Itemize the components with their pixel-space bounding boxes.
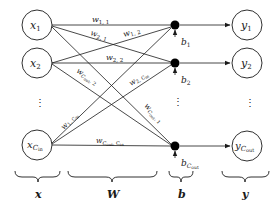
- bias-node-cout: [171, 142, 180, 151]
- group-label-y: y: [241, 188, 250, 201]
- group-label-x: x: [34, 188, 42, 201]
- bias-node-1: [171, 21, 180, 30]
- weight-labels: w1, 1 w2, 1 w1, 2 w2, 2 wCout, 2 w2, Cin…: [59, 15, 165, 147]
- bias-label-2: b2: [181, 75, 191, 86]
- bias-label-cout: bCout: [181, 158, 199, 170]
- weight-label-2-1: w2, 1: [89, 28, 108, 42]
- weight-label-2-2: w2, 2: [106, 53, 123, 63]
- bias-label-1: b1: [181, 37, 191, 48]
- weight-label-1-cin: w1, Cin: [59, 110, 81, 133]
- brace-inputs: [15, 171, 60, 182]
- group-label-w: W: [107, 188, 121, 201]
- bias-nodes: b1 b2 bCout ⋮: [171, 21, 199, 171]
- brace-biases: [169, 171, 193, 182]
- brace-outputs: [222, 171, 269, 182]
- group-braces: [15, 171, 269, 182]
- output-ellipsis: ⋮: [245, 97, 255, 108]
- output-nodes: y1 y2 yCout ⋮: [232, 10, 262, 161]
- bias-ellipsis: ⋮: [173, 96, 183, 107]
- group-label-b: b: [178, 188, 186, 201]
- input-nodes: x1 x2 xCin ⋮: [22, 10, 52, 160]
- group-labels: x W b y: [34, 188, 250, 201]
- weight-label-1-1: w1, 1: [92, 15, 109, 25]
- bias-node-2: [171, 59, 180, 68]
- weight-label-cout-cin: wCout, Cin: [96, 136, 124, 147]
- brace-weights: [68, 171, 157, 182]
- weight-label-cout-1: wCout, 1: [141, 101, 164, 125]
- fc-layer-diagram: x1 x2 xCin ⋮ w1, 1 w2, 1 w1, 2 w2, 2 wCo…: [0, 0, 278, 208]
- weight-connections: [52, 25, 171, 146]
- input-ellipsis: ⋮: [35, 97, 45, 108]
